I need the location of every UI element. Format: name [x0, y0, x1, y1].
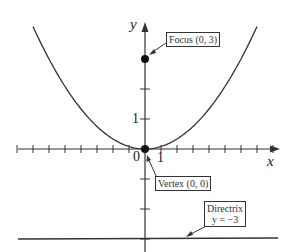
directrix-label-box: Directrix y = −3: [204, 201, 246, 227]
vertex-point: [141, 145, 149, 153]
vertex-arrow: [147, 155, 158, 178]
focus-label: Focus (0, 3): [169, 34, 217, 45]
parabola-diagram: y x 0 1 1 Focus (0, 3) Vertex (0, 0) Dir…: [0, 0, 290, 252]
directrix-line: [18, 238, 278, 239]
origin-label: 0: [133, 149, 140, 165]
focus-arrow: [149, 43, 166, 55]
y-axis-arrow-icon: [142, 22, 149, 32]
plot-canvas: [0, 0, 290, 252]
vertex-label-box: Vertex (0, 0): [155, 176, 211, 191]
y-tick-label-1: 1: [132, 111, 139, 127]
directrix-label: Directrix: [207, 203, 243, 214]
directrix-equation: y = −3: [207, 214, 243, 225]
focus-label-box: Focus (0, 3): [166, 32, 220, 47]
x-tick-label-1: 1: [157, 150, 164, 166]
x-axis-label: x: [267, 153, 274, 170]
x-axis-arrow-icon: [270, 146, 280, 153]
y-axis-label: y: [130, 16, 137, 33]
focus-point: [141, 55, 149, 63]
vertex-label: Vertex (0, 0): [158, 178, 208, 189]
